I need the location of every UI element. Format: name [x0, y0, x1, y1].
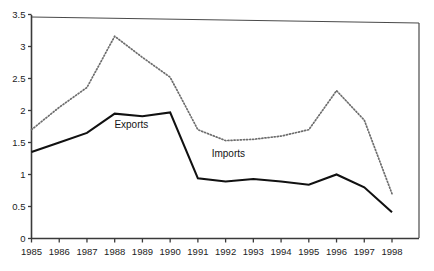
x-tick-label: 1998	[381, 246, 402, 257]
x-tick-label: 1985	[21, 246, 42, 257]
x-tick-label: 1991	[187, 246, 208, 257]
x-tick-label: 1994	[271, 246, 292, 257]
x-tick-label: 1992	[215, 246, 236, 257]
x-tick-label: 1989	[132, 246, 153, 257]
y-tick-label: 0	[20, 233, 25, 244]
x-tick-label: 1996	[326, 246, 347, 257]
y-tick-label: 2	[20, 105, 25, 116]
chart-frame	[31, 15, 419, 239]
y-tick-label: 1.5	[12, 137, 25, 148]
y-tick-label: 3.5	[12, 9, 25, 20]
frame-top-border	[31, 17, 419, 23]
y-tick-label: 1	[20, 169, 25, 180]
series-label-exports: Exports	[114, 119, 148, 130]
chart-container: 00.511.522.533.5 19851986198719881989199…	[0, 0, 434, 271]
x-tick-label: 1986	[49, 246, 70, 257]
y-axis-ticks: 00.511.522.533.5	[12, 9, 31, 244]
y-tick-label: 3	[20, 41, 25, 52]
x-tick-label: 1997	[354, 246, 375, 257]
series-line-exports	[32, 112, 393, 212]
line-chart: 00.511.522.533.5 19851986198719881989199…	[0, 0, 434, 271]
x-tick-label: 1990	[160, 246, 181, 257]
x-axis-ticks: 1985198619871988198919901991199219931994…	[21, 239, 403, 257]
y-tick-label: 2.5	[12, 73, 25, 84]
series-line-imports	[32, 36, 393, 193]
x-tick-label: 1988	[104, 246, 125, 257]
x-tick-label: 1995	[298, 246, 319, 257]
x-tick-label: 1993	[243, 246, 264, 257]
y-tick-label: 0.5	[12, 201, 25, 212]
x-tick-label: 1987	[76, 246, 97, 257]
series-label-imports: Imports	[212, 148, 245, 159]
